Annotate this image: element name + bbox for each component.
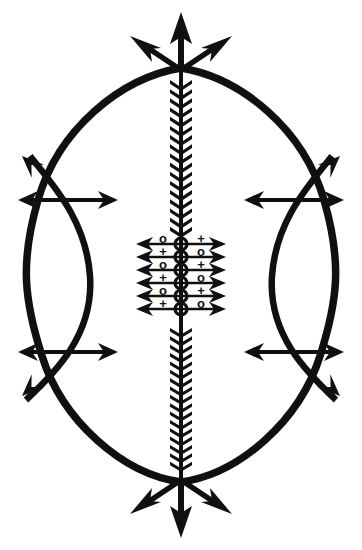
grid-glyph-left-5: + [159, 296, 167, 311]
veve-artwork: o+o+o++o+o+o Veve Ritual Symbol ritual-l… [0, 0, 362, 550]
outer-frame-desc: two mirrored arcs joining top and bottom… [2, 34, 336, 51]
artwork-type: ritual-line-drawing [2, 4, 128, 21]
grid-glyph-right-5: o [197, 296, 205, 311]
